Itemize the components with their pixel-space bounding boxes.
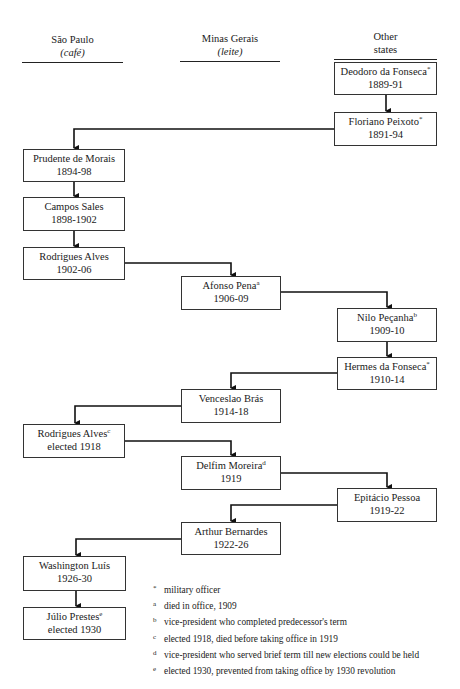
footnote-item: eelected 1930, prevented from taking off… [153,663,419,679]
footnote-item: dvice-president who served brief term ti… [153,647,419,663]
president-name: Venceslao Brás [182,393,280,406]
president-name: Deodoro da Fonseca* [335,66,436,79]
president-name: Rodrigues Alvesc [24,428,124,441]
footnote-text: military officer [164,585,220,595]
president-term: elected 1918 [24,441,124,454]
president-name: Campos Sales [24,201,124,214]
president-name: Afonso Penaa [182,280,280,293]
president-term: 1910-14 [338,374,436,387]
president-box-deodoro-da-fonseca: Deodoro da Fonseca* 1889-91 [334,62,437,95]
president-name: Prudente de Morais [24,153,124,166]
president-box-rodrigues-alves-1902: Rodrigues Alves 1902-06 [23,247,125,280]
footnote-item: celected 1918, died before taking office… [153,631,419,647]
footnote-mark: e [99,610,102,618]
president-box-venceslao-bras: Venceslao Brás 1914-18 [181,389,281,423]
president-term: 1922-26 [182,539,280,552]
president-box-rodrigues-alves-1918: Rodrigues Alvesc elected 1918 [23,424,125,458]
president-name: Hermes da Fonseca* [338,361,436,374]
footnote-mark: e [153,663,164,675]
president-box-arthur-bernardes: Arthur Bernardes 1922-26 [181,522,281,555]
president-box-nilo-pecanha: Nilo Peçanhab 1909-10 [337,308,437,342]
president-term: 1926-30 [24,573,125,586]
president-box-prudente-de-morais: Prudente de Morais 1894-98 [23,149,125,182]
president-box-washington-luis: Washington Luís 1926-30 [23,556,126,591]
footnote-mark: c [107,427,110,435]
president-name: Floriano Peixoto* [335,116,436,129]
president-box-delfim-moreira: Delfim Moreirad 1919 [181,456,281,490]
president-term: 1891-94 [335,129,436,142]
president-name: Arthur Bernardes [182,526,280,539]
president-box-julio-prestes: Júlio Prestese elected 1930 [23,607,126,640]
president-name: Delfim Moreirad [182,460,280,473]
footnote-mark: * [153,582,164,594]
president-name: Júlio Prestese [24,611,125,624]
footnote-mark: a [256,279,259,287]
footnote-mark: b [413,311,417,319]
footnotes-legend: *military officer adied in office, 1909 … [153,582,419,679]
president-name: Rodrigues Alves [24,251,124,264]
president-box-epitacio-pessoa: Epitácio Pessoa 1919-22 [337,488,437,522]
president-name: Epitácio Pessoa [338,492,436,505]
president-term: 1914-18 [182,406,280,419]
footnote-text: elected 1930, prevented from taking offi… [164,666,395,676]
footnote-mark: b [153,614,164,626]
footnote-text: elected 1918, died before taking office … [164,634,338,644]
footnote-mark: * [419,115,423,123]
president-term: 1902-06 [24,264,124,277]
president-term: 1919-22 [338,505,436,518]
president-term: 1889-91 [335,79,436,92]
president-term: 1906-09 [182,293,280,306]
president-term: 1909-10 [338,325,436,338]
footnote-item: *military officer [153,582,419,598]
president-term: 1919 [182,473,280,486]
footnote-mark: c [153,631,164,643]
footnote-text: vice-president who completed predecessor… [164,617,347,627]
president-term: elected 1930 [24,624,125,637]
footnote-mark: * [426,360,430,368]
president-box-floriano-peixoto: Floriano Peixoto* 1891-94 [334,112,437,146]
footnote-item: bvice-president who completed predecesso… [153,614,419,630]
footnote-mark: a [153,598,164,610]
footnote-text: vice-president who served brief term til… [164,650,419,660]
footnote-item: adied in office, 1909 [153,598,419,614]
president-term: 1894-98 [24,166,124,179]
footnote-mark: * [427,65,431,73]
president-box-afonso-pena: Afonso Penaa 1906-09 [181,276,281,310]
footnote-mark: d [262,459,266,467]
president-name: Nilo Peçanhab [338,312,436,325]
footnote-mark: d [153,647,164,659]
president-term: 1898-1902 [24,214,124,227]
footnote-text: died in office, 1909 [164,601,237,611]
president-box-campos-sales: Campos Sales 1898-1902 [23,197,125,231]
president-name: Washington Luís [24,560,125,573]
president-box-hermes-da-fonseca: Hermes da Fonseca* 1910-14 [337,357,437,390]
